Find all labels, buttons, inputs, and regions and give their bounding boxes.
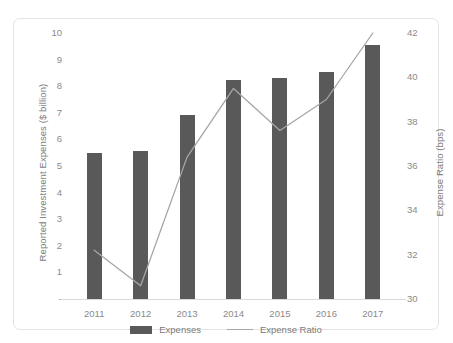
y-axis-left-tick: 2 xyxy=(57,241,62,251)
legend-item-expense-ratio[interactable]: Expense Ratio xyxy=(227,324,322,335)
y-axis-right-tick: 34 xyxy=(407,205,418,215)
bar-swatch-icon xyxy=(130,326,152,334)
y-axis-left-tick: 3 xyxy=(57,214,62,224)
y-axis-right-tick: 38 xyxy=(407,117,418,127)
y-axis-left-tick: 1 xyxy=(57,267,62,277)
legend-item-expenses[interactable]: Expenses xyxy=(130,324,201,335)
x-axis-label-2017: 2017 xyxy=(350,308,396,319)
y-axis-left-tick: 10 xyxy=(51,28,62,38)
y-axis-left-tick: 4 xyxy=(57,188,62,198)
y-axis-left-tick: 7 xyxy=(57,108,62,118)
y-axis-right-tick: 32 xyxy=(407,250,418,260)
line-swatch-icon xyxy=(227,329,253,330)
y-axis-right-tick: 36 xyxy=(407,161,418,171)
x-axis-label-2016: 2016 xyxy=(303,308,349,319)
x-axis-label-2012: 2012 xyxy=(117,308,163,319)
y-axis-left-tick: 9 xyxy=(57,55,62,65)
y-axis-right-title: Expense Ratio (bps) xyxy=(434,78,445,268)
y-axis-left-title: Reported Investment Expenses ($ billion) xyxy=(37,68,48,278)
x-axis-label-2014: 2014 xyxy=(210,308,256,319)
y-axis-right-tick: 42 xyxy=(407,28,418,38)
y-axis-right-tick: 30 xyxy=(407,294,418,304)
y-axis-left-tick: 8 xyxy=(57,81,62,91)
chart-legend: Expenses Expense Ratio xyxy=(14,324,438,335)
x-axis-label-2015: 2015 xyxy=(257,308,303,319)
line-series-expense-ratio xyxy=(71,33,396,299)
y-axis-left-tick: 6 xyxy=(57,134,62,144)
x-axis-label-2013: 2013 xyxy=(164,308,210,319)
x-axis-line xyxy=(61,299,406,300)
legend-label-expenses: Expenses xyxy=(159,324,201,335)
legend-label-expense-ratio: Expense Ratio xyxy=(260,324,322,335)
x-axis-label-2011: 2011 xyxy=(71,308,117,319)
plot-area: -12345678910 30323436384042 201120122013… xyxy=(71,33,396,299)
y-axis-left-tick: 5 xyxy=(57,161,62,171)
chart-container: Reported Investment Expenses ($ billion)… xyxy=(13,18,439,330)
y-axis-right-tick: 40 xyxy=(407,72,418,82)
